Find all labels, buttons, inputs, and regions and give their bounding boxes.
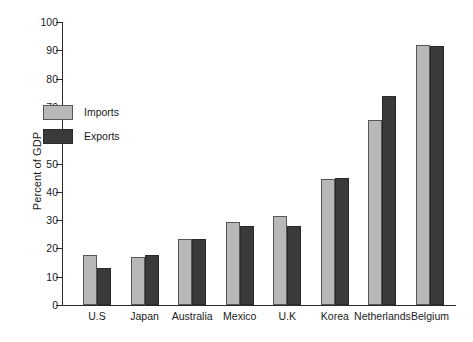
bar-imports[interactable] [131, 257, 145, 305]
bar-exports[interactable] [382, 96, 396, 305]
bar-group: U.S [83, 22, 111, 305]
bar-group: U.K [273, 22, 301, 305]
bar-group: Mexico [226, 22, 254, 305]
y-tick-label: 40 [46, 187, 58, 198]
x-tick-label: U.S [88, 311, 106, 322]
bar-group: Japan [131, 22, 159, 305]
y-tick-label: 0 [52, 300, 58, 311]
bar-imports[interactable] [226, 222, 240, 305]
bar-exports[interactable] [97, 268, 111, 305]
bar-exports[interactable] [430, 46, 444, 305]
x-tick-label: Australia [172, 311, 213, 322]
legend-item-imports[interactable]: Imports [43, 104, 163, 120]
bar-imports[interactable] [83, 255, 97, 305]
legend-label: Exports [84, 130, 120, 142]
x-tick-label: Korea [321, 311, 349, 322]
x-tick-label: Belgium [411, 311, 449, 322]
y-tick-label: 30 [46, 215, 58, 226]
legend-item-exports[interactable]: Exports [43, 128, 163, 144]
y-tick-label: 10 [46, 271, 58, 282]
bar-chart-figure: Percent of GDP 0102030405060708090100 U.… [0, 0, 473, 342]
chart-legend: ImportsExports [43, 104, 163, 152]
y-tick-label: 80 [46, 73, 58, 84]
x-tick-label: Netherlands [354, 311, 411, 322]
x-axis-spine [62, 305, 456, 306]
y-axis-spine [62, 22, 63, 306]
legend-label: Imports [84, 106, 119, 118]
bar-group: Australia [178, 22, 206, 305]
y-tick-label: 50 [46, 158, 58, 169]
bar-imports[interactable] [416, 45, 430, 305]
bar-imports[interactable] [368, 120, 382, 305]
x-tick-label: Mexico [223, 311, 256, 322]
bar-imports[interactable] [273, 216, 287, 305]
bar-exports[interactable] [192, 239, 206, 306]
legend-swatch-exports [43, 129, 73, 144]
y-tick-label: 20 [46, 243, 58, 254]
bar-imports[interactable] [178, 239, 192, 306]
x-tick-label: Japan [130, 311, 159, 322]
bar-exports[interactable] [335, 178, 349, 305]
x-tick-label: U.K [279, 311, 297, 322]
y-tick-label: 90 [46, 45, 58, 56]
bar-exports[interactable] [240, 226, 254, 305]
plot-area: 0102030405060708090100 U.SJapanAustralia… [62, 22, 455, 305]
bar-exports[interactable] [287, 226, 301, 305]
bar-imports[interactable] [321, 179, 335, 305]
bar-group: Netherlands [368, 22, 396, 305]
legend-swatch-imports [43, 105, 73, 120]
y-axis-label-text: Percent of GDP [31, 132, 43, 210]
bar-group: Korea [321, 22, 349, 305]
bar-exports[interactable] [145, 255, 159, 305]
bar-group: Belgium [416, 22, 444, 305]
y-tick-label: 100 [40, 17, 58, 28]
